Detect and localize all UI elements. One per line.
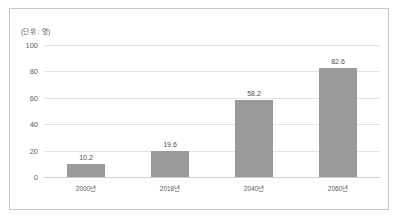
y-axis-tick-label: 60 <box>30 93 38 102</box>
bar-value-label: 58.2 <box>247 90 261 97</box>
y-axis-tick-label: 80 <box>30 67 38 76</box>
x-axis-category-label: 2000년 <box>76 183 96 193</box>
x-axis-category-label: 2040년 <box>244 183 264 193</box>
bar-group: 10.22000년 <box>44 45 128 177</box>
unit-caption: (단위 : 명) <box>21 26 50 36</box>
bar-group: 19.62018년 <box>128 45 212 177</box>
plot-area: 02040608010010.22000년19.62018년58.22040년8… <box>44 45 380 177</box>
bar-group: 58.22040년 <box>212 45 296 177</box>
y-axis-tick-label: 40 <box>30 120 38 129</box>
y-axis-tick-label: 0 <box>34 173 38 182</box>
bar-group: 82.62060년 <box>296 45 380 177</box>
axis-baseline: 0 <box>44 177 380 178</box>
bar-value-label: 10.2 <box>79 154 93 161</box>
y-axis-tick-label: 20 <box>30 146 38 155</box>
bar <box>235 100 273 177</box>
bar-chart-figure: (단위 : 명) 02040608010010.22000년19.62018년5… <box>0 0 398 219</box>
bar-value-label: 82.6 <box>331 58 345 65</box>
bar-value-label: 19.6 <box>163 141 177 148</box>
y-axis-tick-label: 100 <box>25 41 38 50</box>
x-axis-category-label: 2018년 <box>160 183 180 193</box>
bar <box>67 164 105 177</box>
bar <box>319 68 357 177</box>
x-axis-category-label: 2060년 <box>328 183 348 193</box>
bar <box>151 151 189 177</box>
